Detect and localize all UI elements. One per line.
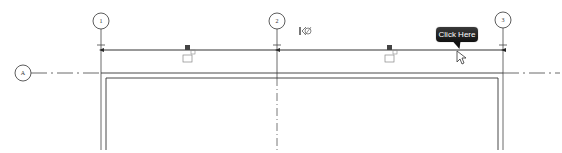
arrow-cursor-icon [456, 50, 468, 66]
drawing-canvas[interactable]: 1 2 3 A [0, 0, 562, 153]
lock-icon[interactable] [385, 45, 397, 62]
hide-element-icon[interactable] [299, 27, 311, 35]
grid-bubble-3-label: 3 [502, 17, 505, 23]
click-here-tooltip: Click Here [436, 27, 478, 42]
lock-icon[interactable] [183, 45, 195, 62]
wall[interactable] [101, 73, 503, 150]
grid-bubble-2-label: 2 [276, 18, 279, 24]
grid-line-2[interactable]: 2 [269, 13, 285, 150]
grid-bubble-a-label: A [21, 70, 26, 76]
grid-line-1[interactable]: 1 [93, 13, 109, 150]
grid-bubble-1-label: 1 [100, 18, 103, 24]
grid-line-3[interactable]: 3 [495, 12, 511, 150]
